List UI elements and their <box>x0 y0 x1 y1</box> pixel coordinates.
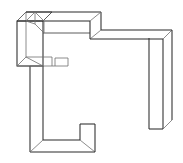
wireframe-block-figure <box>0 0 183 163</box>
front-face-right-arm <box>90 21 163 129</box>
edge-inner-tab <box>55 58 68 66</box>
front-face-main <box>17 21 95 152</box>
drawing-canvas <box>0 0 183 163</box>
edge-right-column-bottom-diagonal <box>163 120 172 129</box>
